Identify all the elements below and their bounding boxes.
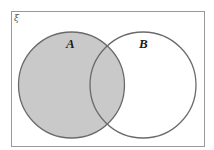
set-b-label: B	[138, 36, 148, 51]
set-a-label: A	[65, 36, 75, 51]
venn-diagram: ξ A B	[0, 0, 214, 150]
